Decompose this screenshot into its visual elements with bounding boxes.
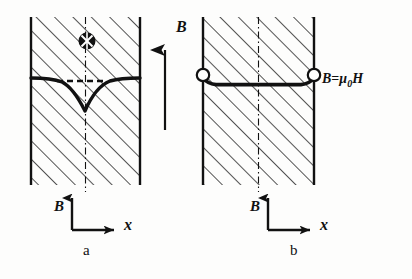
panel-b-group: [197, 17, 320, 230]
figure-drawing: [0, 0, 412, 279]
flux-endpoint-left: [197, 69, 209, 81]
figure-canvas: B x a B B x b B=μ0H: [0, 0, 412, 279]
panel-a-group: [31, 17, 140, 230]
field-into-page-symbol: [79, 33, 96, 50]
panel-b-axis-pair: [268, 198, 310, 230]
flux-endpoint-right: [308, 69, 320, 81]
panel-a-axis-pair: [72, 198, 114, 230]
